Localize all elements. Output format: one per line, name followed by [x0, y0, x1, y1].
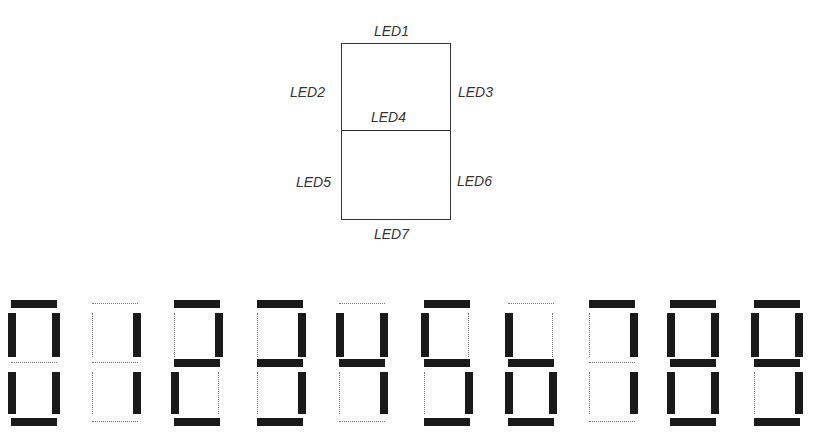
segment-led4-on: [508, 359, 554, 367]
segment-led1-on: [589, 300, 635, 308]
label-led6: LED6: [457, 173, 492, 189]
segment-led1-off: [508, 303, 554, 305]
segment-led1-on: [424, 300, 470, 308]
segment-led6-on: [298, 372, 306, 414]
segment-led5-off: [589, 372, 591, 414]
segment-led3-on: [215, 313, 223, 357]
segment-outline-box: [341, 43, 451, 220]
segment-led4-on: [257, 359, 303, 367]
segment-led5-off: [257, 372, 259, 414]
segment-led1-on: [670, 300, 716, 308]
digit-8: [667, 297, 723, 429]
segment-led5-off: [92, 372, 94, 414]
segment-led5-off: [754, 372, 756, 414]
segment-led4-off: [92, 362, 138, 364]
digit-4: [336, 297, 392, 429]
segment-led3-on: [380, 313, 388, 357]
segment-led2-off: [92, 313, 94, 357]
segment-led7-on: [754, 418, 800, 426]
segment-led2-on: [667, 313, 675, 357]
segment-led6-on: [549, 372, 557, 414]
label-led7: LED7: [374, 226, 409, 242]
segment-led5-on: [505, 372, 513, 414]
segment-led3-off: [552, 313, 554, 357]
segment-led5-on: [8, 372, 16, 414]
segment-led6-on: [795, 372, 803, 414]
segment-led7-on: [257, 418, 303, 426]
segment-led4-off: [589, 362, 635, 364]
label-led3: LED3: [458, 84, 493, 100]
segment-led6-on: [52, 372, 60, 414]
segment-led4-on: [424, 359, 470, 367]
segment-led3-on: [711, 313, 719, 357]
label-led1: LED1: [374, 23, 409, 39]
digit-9: [751, 297, 807, 429]
segment-led2-off: [589, 313, 591, 357]
segment-led1-off: [92, 303, 138, 305]
segment-led7-on: [424, 418, 470, 426]
digit-0: [8, 297, 64, 429]
digit-6: [505, 297, 561, 429]
label-led5: LED5: [296, 174, 331, 190]
segment-led3-on: [630, 313, 638, 357]
digit-3: [254, 297, 310, 429]
segment-led5-off: [424, 372, 426, 414]
segment-led4-on: [670, 359, 716, 367]
segment-led7-on: [174, 418, 220, 426]
digit-2: [171, 297, 227, 429]
segment-led7-on: [670, 418, 716, 426]
segment-led2-on: [505, 313, 513, 357]
digit-7: [586, 297, 642, 429]
segment-led4-on: [174, 359, 220, 367]
segment-led2-off: [257, 313, 259, 357]
segment-led1-on: [754, 300, 800, 308]
segment-led3-on: [52, 313, 60, 357]
segment-led5-on: [171, 372, 179, 414]
segment-led3-off: [468, 313, 470, 357]
segment-led1-on: [174, 300, 220, 308]
label-led2: LED2: [290, 84, 325, 100]
segment-led5-on: [667, 372, 675, 414]
segment-led2-off: [174, 313, 176, 357]
segment-led7-off: [92, 421, 138, 423]
segment-led4-on: [754, 359, 800, 367]
segment-led7-on: [11, 418, 57, 426]
segment-led1-on: [257, 300, 303, 308]
segment-led6-on: [630, 372, 638, 414]
segment-led1-on: [11, 300, 57, 308]
segment-led6-off: [218, 372, 220, 414]
segment-led7-off: [339, 421, 385, 423]
segment-led6-on: [711, 372, 719, 414]
segment-led6-on: [133, 372, 141, 414]
segment-led2-on: [8, 313, 16, 357]
segment-led7-on: [508, 418, 554, 426]
segment-led6-on: [380, 372, 388, 414]
segment-led3-on: [795, 313, 803, 357]
segment-led7-off: [589, 421, 635, 423]
segment-led6-on: [465, 372, 473, 414]
segment-led5-off: [339, 372, 341, 414]
segment-led3-on: [298, 313, 306, 357]
segment-led4-on: [339, 359, 385, 367]
label-led4: LED4: [371, 109, 406, 125]
segment-led1-off: [339, 303, 385, 305]
segment-led3-on: [133, 313, 141, 357]
segment-led2-on: [421, 313, 429, 357]
digit-1: [89, 297, 145, 429]
segment-led4-off: [11, 362, 57, 364]
digit-5: [421, 297, 477, 429]
segment-middle-line: [341, 130, 451, 131]
segment-led2-on: [336, 313, 344, 357]
segment-led2-on: [751, 313, 759, 357]
